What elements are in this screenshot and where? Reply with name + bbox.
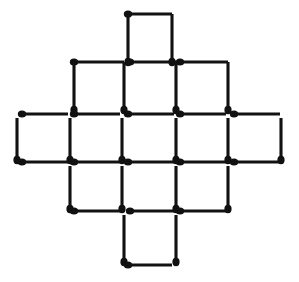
matchstick-head (176, 110, 184, 117)
matchstick-head (18, 158, 26, 165)
matchstick-head (172, 258, 179, 266)
matchstick-head (124, 110, 132, 117)
matchstick-head (126, 207, 134, 214)
matchstick-head (176, 158, 184, 165)
matchstick-head (70, 207, 78, 214)
matchstick-head (70, 158, 78, 165)
matchstick-head (18, 110, 26, 117)
matchstick-head (124, 261, 132, 268)
matchstick-head (230, 158, 238, 165)
matchstick-head (230, 110, 238, 117)
matchstick-head (176, 207, 184, 214)
matchstick-figure-container: Matchstick grid figure (0, 0, 299, 282)
figure-background (0, 0, 299, 282)
matchstick-head (126, 58, 134, 65)
matchstick-head (70, 110, 78, 117)
matchstick-head (124, 158, 132, 165)
matchstick-diagram (0, 0, 299, 282)
